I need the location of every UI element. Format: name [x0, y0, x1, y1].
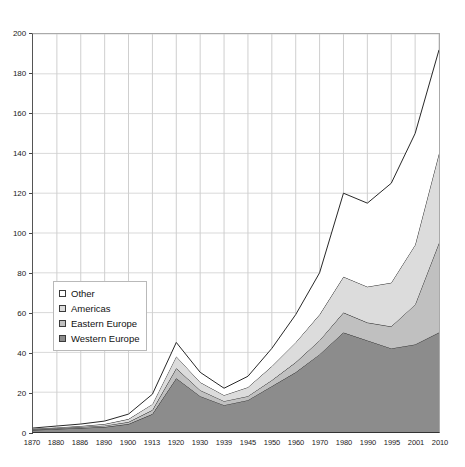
y-axis-tick-label: 20 [0, 389, 26, 398]
y-axis-tick-label: 180 [0, 69, 26, 78]
plot-area [32, 33, 440, 433]
y-axis-tick-label: 80 [0, 269, 26, 278]
legend-item-eastern-europe[interactable]: Eastern Europe [59, 316, 139, 331]
legend-label-western-europe: Western Europe [71, 334, 139, 344]
legend-item-americas[interactable]: Americas [59, 301, 139, 316]
x-axis-tick-label: 2010 [423, 438, 457, 447]
y-axis-tick-label: 0 [0, 429, 26, 438]
legend-label-americas: Americas [71, 304, 111, 314]
y-axis-tick-label: 100 [0, 229, 26, 238]
y-axis-tick-label: 160 [0, 109, 26, 118]
y-axis-tick-label: 140 [0, 149, 26, 158]
legend-swatch-eastern-europe [59, 320, 66, 327]
stacked-area-chart: 020406080100120140160180200 187018801886… [0, 0, 465, 467]
legend-item-western-europe[interactable]: Western Europe [59, 331, 139, 346]
area-series-layer [33, 34, 439, 432]
legend-label-eastern-europe: Eastern Europe [71, 319, 137, 329]
legend-swatch-americas [59, 305, 66, 312]
legend-swatch-other [59, 290, 66, 297]
y-axis-tick-label: 120 [0, 189, 26, 198]
y-axis-tick-label: 200 [0, 29, 26, 38]
legend-swatch-western-europe [59, 335, 66, 342]
y-axis-tick-label: 40 [0, 349, 26, 358]
legend-label-other: Other [71, 289, 95, 299]
legend: Other Americas Eastern Europe Western Eu… [53, 281, 147, 351]
y-axis-tick-label: 60 [0, 309, 26, 318]
y-axis-tick-mark [29, 433, 33, 434]
legend-item-other[interactable]: Other [59, 286, 139, 301]
